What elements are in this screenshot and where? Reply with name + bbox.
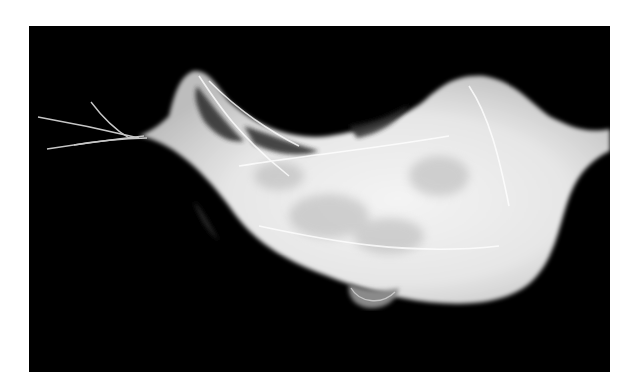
silk-cocoon-illustration	[29, 26, 610, 372]
photograph	[29, 26, 610, 372]
silk-strands-left	[38, 102, 147, 149]
